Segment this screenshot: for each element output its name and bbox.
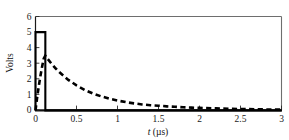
x-axis-tick-labels: 0 0.5 1 1.5 2 2.5 3: [33, 114, 284, 124]
x-ticklabel-3: 1.5: [153, 114, 165, 124]
y-ticklabel-3: 3: [27, 59, 32, 69]
y-ticklabel-5: 5: [27, 27, 32, 37]
x-axis-label-units: (µs): [153, 127, 169, 138]
series-input-pulse: [36, 32, 282, 110]
y-ticklabel-4: 4: [27, 43, 32, 53]
x-ticklabel-5: 2.5: [235, 114, 247, 124]
series-output-response: [36, 56, 282, 111]
x-ticklabel-4: 2: [197, 114, 202, 124]
chart-figure: 0 0.5 1 1.5 2 2.5 3 0 1 2 3 4 5 6 Volts …: [0, 0, 289, 140]
x-ticklabel-0: 0: [33, 114, 38, 124]
x-ticklabel-6: 3: [279, 114, 284, 124]
y-ticklabel-0: 0: [27, 105, 32, 115]
y-axis-tick-labels: 0 1 2 3 4 5 6: [27, 12, 32, 116]
x-axis-label: t (µs): [148, 127, 169, 138]
x-ticklabel-1: 0.5: [71, 114, 83, 124]
y-ticklabel-1: 1: [27, 90, 32, 100]
y-ticklabel-6: 6: [27, 12, 32, 22]
y-ticklabel-2: 2: [27, 74, 32, 84]
volts-vs-time-plot: 0 0.5 1 1.5 2 2.5 3 0 1 2 3 4 5 6 Volts …: [0, 0, 289, 140]
x-ticklabel-2: 1: [115, 114, 120, 124]
y-axis-label: Volts: [5, 53, 15, 73]
